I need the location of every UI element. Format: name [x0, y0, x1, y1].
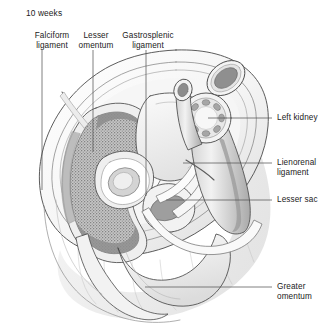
label-lienorenal-ligament: Lienorenal ligament — [277, 158, 326, 177]
label-left-kidney: Left kidney — [277, 113, 326, 123]
figure-canvas: 10 weeks Falciform ligament Lesser oment… — [0, 0, 326, 325]
illustration-body — [39, 50, 270, 323]
label-gastrosplenic-ligament: Gastrosplenic ligament — [112, 31, 184, 50]
stage-label: 10 weeks — [26, 9, 62, 19]
label-greater-omentum: Greater omentum — [277, 282, 326, 301]
label-lesser-sac: Lesser sac — [277, 195, 326, 205]
